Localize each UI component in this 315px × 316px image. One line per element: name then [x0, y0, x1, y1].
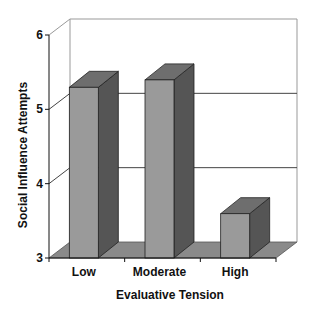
side-wall-edge: [49, 19, 70, 35]
bar-moderate: [145, 64, 194, 258]
gridline-side: [49, 93, 70, 109]
x-axis-title: Evaluative Tension: [116, 288, 224, 302]
bar-front: [145, 80, 174, 258]
bar-front: [69, 87, 98, 258]
bar-low: [69, 71, 118, 258]
x-tick-label: Moderate: [133, 265, 187, 279]
y-axis-title: Social Influence Attempts: [16, 82, 30, 229]
bar-side: [98, 71, 118, 258]
bar-front: [221, 214, 250, 258]
x-tick-label: Low: [72, 265, 97, 279]
y-axis: 3456: [36, 28, 49, 265]
y-tick-label: 4: [36, 177, 43, 191]
y-tick-label: 5: [36, 102, 43, 116]
bar-chart: 3456 LowModerateHigh Evaluative Tension …: [0, 0, 315, 316]
gridline-side: [49, 168, 70, 184]
y-tick-label: 3: [36, 251, 43, 265]
x-axis: LowModerateHigh: [49, 258, 276, 279]
y-tick-label: 6: [36, 28, 43, 42]
x-tick-label: High: [222, 265, 249, 279]
bar-side: [174, 64, 194, 258]
